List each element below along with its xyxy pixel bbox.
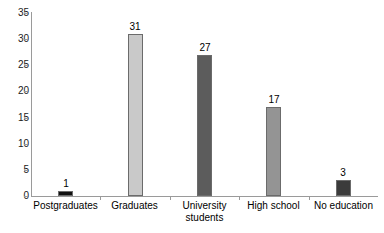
bar-value-label: 1: [46, 178, 86, 189]
bar: [128, 34, 143, 196]
y-axis-tick-group: 05101520253035: [0, 0, 29, 233]
y-axis-tick-mark: [24, 118, 28, 119]
x-axis-line: [31, 196, 378, 197]
bar-value-label: 3: [323, 167, 363, 178]
category-label-line: University: [170, 200, 239, 212]
bar: [58, 191, 73, 196]
bar-chart: 05101520253035 13127173 PostgraduatesGra…: [0, 0, 384, 233]
category-label-line: High school: [239, 200, 308, 212]
y-axis-tick-mark: [24, 91, 28, 92]
bar: [266, 107, 281, 196]
y-axis-tick-mark: [24, 65, 28, 66]
category-label-line: No education: [309, 200, 378, 212]
category-label-line: Graduates: [100, 200, 169, 212]
bar-value-label: 17: [254, 94, 294, 105]
x-axis-category-label: No education: [309, 200, 378, 212]
y-axis-line: [31, 12, 32, 197]
category-label-line: Postgraduates: [31, 200, 100, 212]
bar: [197, 55, 212, 196]
bar: [336, 180, 351, 196]
y-axis-tick-mark: [24, 170, 28, 171]
x-axis-category-label: High school: [239, 200, 308, 212]
bar-value-label: 27: [185, 42, 225, 53]
x-axis-category-label: Universitystudents: [170, 200, 239, 224]
y-axis-tick-mark: [24, 144, 28, 145]
y-axis-tick-mark: [24, 39, 28, 40]
x-axis-category-label: Postgraduates: [31, 200, 100, 212]
y-axis-tick-mark: [24, 13, 28, 14]
bar-value-label: 31: [115, 21, 155, 32]
x-axis-category-label: Graduates: [100, 200, 169, 212]
category-label-line: students: [170, 212, 239, 224]
y-axis-tick-mark: [24, 196, 28, 197]
